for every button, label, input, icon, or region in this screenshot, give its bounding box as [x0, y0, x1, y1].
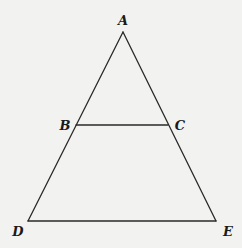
- vertex-label-a: A: [116, 13, 128, 28]
- segment-AE: [123, 32, 216, 221]
- vertex-label-c: C: [175, 118, 186, 133]
- vertex-label-d: D: [11, 224, 24, 239]
- vertex-label-b: B: [59, 118, 71, 133]
- vertex-label-e: E: [222, 224, 234, 239]
- segments-group: [28, 32, 216, 221]
- triangle-diagram: A B C D E: [0, 0, 242, 248]
- segment-AD: [28, 32, 123, 221]
